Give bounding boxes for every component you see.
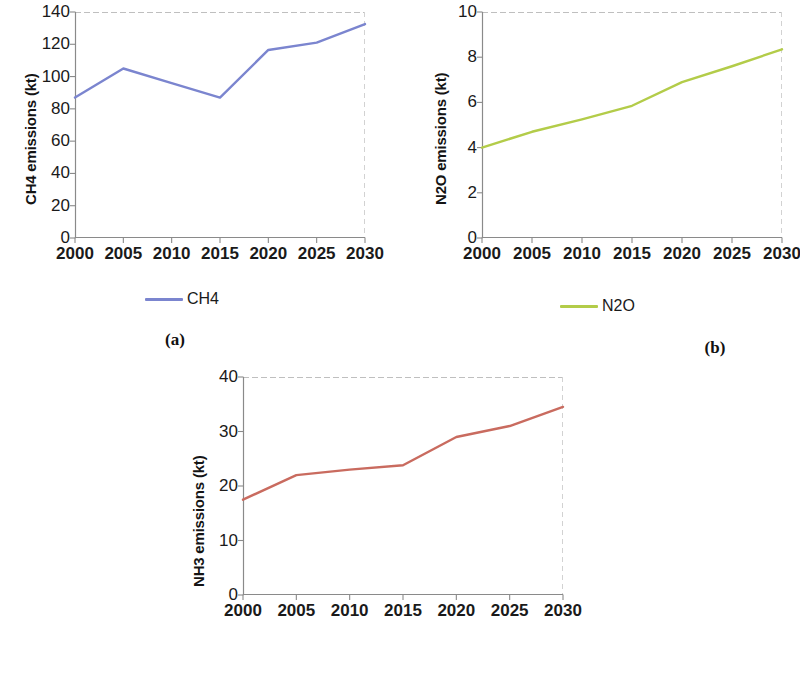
panel-b-x-tick-2010: 2010 [563,244,601,264]
panel-a-y-tick-140: 140 [10,2,70,22]
panel-b-n2o: N2O emissions (kt) 0246810 2000200520102… [400,0,800,365]
panel-a-legend-label-ch4: CH4 [187,290,219,308]
panel-b-x-tick-2020: 2020 [663,244,701,264]
panel-a-y-tick-60: 60 [10,131,70,151]
panel-a-caption: (a) [165,330,185,350]
panel-b-x-tick-2005: 2005 [513,244,551,264]
panel-b-legend-swatch-n2o [560,305,598,308]
panel-a-y-tick-100: 100 [10,67,70,87]
panel-a-x-tick-2020: 2020 [249,244,287,264]
panel-a-x-tick-2005: 2005 [104,244,142,264]
panel-a-y-tick-80: 80 [10,99,70,119]
panel-c-x-tick-2000: 2000 [224,601,262,621]
panel-c-y-tick-20: 20 [178,476,238,496]
panel-c-x-tick-2020: 2020 [437,601,475,621]
panel-c-x-tick-2025: 2025 [491,601,529,621]
panel-b-legend-label-n2o: N2O [602,297,635,315]
panel-b-y-tick-4: 4 [417,138,477,158]
panel-a-x-tick-2015: 2015 [201,244,239,264]
panel-c-line-chart [243,377,563,595]
panel-c-y-tick-40: 40 [178,367,238,387]
panel-b-y-tick-10: 10 [417,2,477,22]
panel-b-x-tick-2030: 2030 [763,244,800,264]
panel-b-legend: N2O [560,297,635,315]
panel-a-x-tick-2030: 2030 [346,244,384,264]
panel-c-x-tick-2010: 2010 [331,601,369,621]
panel-a-x-tick-2010: 2010 [153,244,191,264]
panel-a-plot-area [75,12,365,238]
panel-c-x-tick-2005: 2005 [277,601,315,621]
panel-b-line-chart [482,12,782,238]
panel-a-ch4: CH4 emissions (kt) 020406080100120140 20… [0,0,400,365]
panel-a-x-tick-2025: 2025 [298,244,336,264]
panel-a-legend-swatch-ch4 [145,298,183,301]
panel-c-y-tick-10: 10 [178,531,238,551]
panel-a-y-tick-20: 20 [10,196,70,216]
panel-b-y-tick-8: 8 [417,47,477,67]
panel-b-plot-area [482,12,782,238]
panel-a-legend: CH4 [145,290,219,308]
panel-a-line-chart [75,12,365,238]
panel-b-x-tick-2015: 2015 [613,244,651,264]
panel-a-y-tick-40: 40 [10,163,70,183]
panel-c-x-tick-2030: 2030 [544,601,582,621]
panel-b-x-tick-2025: 2025 [713,244,751,264]
panel-c-x-tick-2015: 2015 [384,601,422,621]
panel-b-x-tick-2000: 2000 [463,244,501,264]
panel-b-caption: (b) [705,338,726,358]
panel-b-y-tick-6: 6 [417,92,477,112]
panel-c-nh3: NH3 emissions (kt) 010203040 20002005201… [0,365,800,693]
panel-c-plot-area [243,377,563,595]
panel-a-x-tick-2000: 2000 [56,244,94,264]
panel-c-y-tick-30: 30 [178,422,238,442]
panel-a-y-tick-120: 120 [10,34,70,54]
panel-b-y-tick-2: 2 [417,183,477,203]
